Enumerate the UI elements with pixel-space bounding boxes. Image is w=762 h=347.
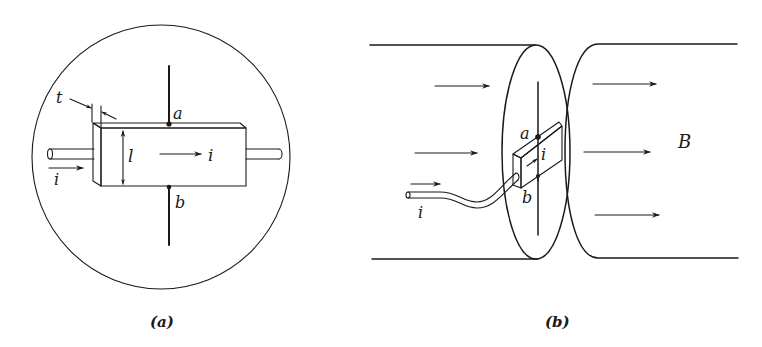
label-B-field: B: [677, 131, 691, 152]
label-i-input: i: [54, 170, 59, 189]
label-a: a: [520, 124, 530, 143]
terminal-b-dot: [167, 185, 172, 190]
terminal-a-dot: [535, 134, 541, 140]
terminal-a-dot: [166, 121, 171, 126]
hall-effect-figure: t a l i i b (a): [0, 0, 762, 347]
current-arrow-inside: [527, 159, 537, 166]
label-b: b: [522, 188, 532, 207]
terminal-b-dot: [536, 174, 540, 178]
caption-a: (a): [150, 313, 174, 331]
label-t: t: [56, 88, 63, 107]
caption-b: (b): [545, 313, 570, 331]
label-i-inside: i: [208, 145, 213, 165]
panel-b: a i b i B (b): [370, 44, 738, 331]
viewport-circle: [32, 25, 290, 289]
right-pole: [565, 44, 738, 258]
output-rod: [246, 149, 282, 159]
label-a: a: [173, 104, 183, 123]
pole-face-disk: [502, 45, 570, 259]
label-b: b: [175, 193, 185, 212]
panel-a: t a l i i b (a): [32, 25, 290, 331]
label-l: l: [128, 146, 133, 166]
label-i-input: i: [418, 203, 423, 222]
label-i-inside: i: [541, 145, 546, 164]
input-rod: [48, 149, 95, 159]
